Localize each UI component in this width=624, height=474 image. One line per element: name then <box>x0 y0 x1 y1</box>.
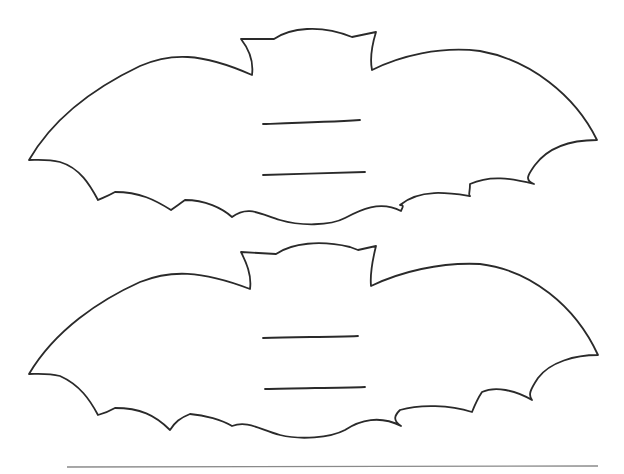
bat-top <box>29 29 597 224</box>
bat-template-sheet <box>0 0 624 474</box>
bat-bottom-outline <box>29 243 598 437</box>
bat-top-outline <box>29 29 597 224</box>
bat-bottom <box>29 243 598 437</box>
bottom-rule-line <box>67 466 598 467</box>
